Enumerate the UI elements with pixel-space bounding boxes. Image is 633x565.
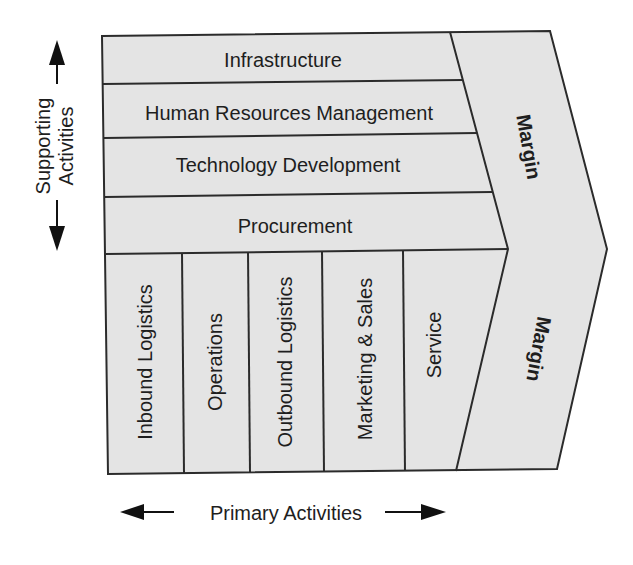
primary-outbound-logistics: Outbound Logistics <box>274 276 296 447</box>
primary-activities-label: Primary Activities <box>210 502 362 524</box>
primary-activities-axis: Primary Activities <box>120 502 446 524</box>
support-hr-management: Human Resources Management <box>145 102 433 124</box>
support-technology-development: Technology Development <box>176 154 401 176</box>
supporting-label-line2: Activities <box>55 107 77 186</box>
support-procurement: Procurement <box>238 215 353 237</box>
primary-inbound-logistics: Inbound Logistics <box>134 284 156 440</box>
primary-marketing-sales: Marketing & Sales <box>354 278 376 440</box>
supporting-label-line1: Supporting <box>32 98 54 195</box>
primary-service: Service <box>423 312 445 379</box>
support-infrastructure: Infrastructure <box>224 49 342 71</box>
value-chain-diagram: Infrastructure Human Resources Managemen… <box>0 0 633 565</box>
primary-operations: Operations <box>204 313 226 411</box>
supporting-activities-axis: Supporting Activities <box>32 40 77 251</box>
